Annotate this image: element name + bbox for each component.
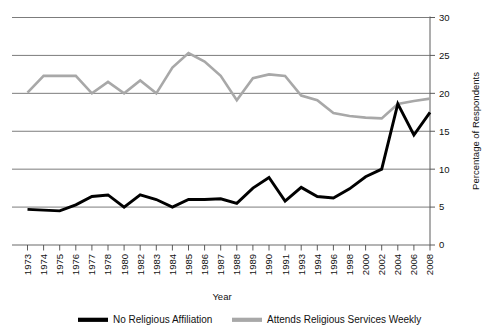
x-tick-labels-group: 1973197419751976197719781980198219831984… <box>22 254 436 275</box>
y-tick-labels-group: 051015202530 <box>439 12 450 251</box>
y-tick-label-10: 10 <box>439 164 450 175</box>
chart-legend: No Religious AffiliationAttends Religiou… <box>78 314 421 325</box>
x-axis-group <box>28 245 431 251</box>
gridlines-group <box>12 18 430 246</box>
y-tick-label-20: 20 <box>439 88 450 99</box>
x-tick-label-1984: 1984 <box>167 254 178 275</box>
x-tick-label-1986: 1986 <box>199 254 210 275</box>
legend-label-0: No Religious Affiliation <box>113 314 212 325</box>
x-tick-label-1996: 1996 <box>328 254 339 275</box>
x-tick-label-1973: 1973 <box>22 254 33 275</box>
x-tick-label-2002: 2002 <box>376 254 387 275</box>
x-tick-label-1977: 1977 <box>86 254 97 275</box>
y-axis-title: Percentage of Respondents <box>470 72 481 190</box>
series-lines-group <box>28 53 431 211</box>
x-tick-label-1987: 1987 <box>215 254 226 275</box>
x-tick-label-1983: 1983 <box>151 254 162 275</box>
y-tick-label-25: 25 <box>439 50 450 61</box>
x-tick-label-1975: 1975 <box>54 254 65 275</box>
x-tick-label-1989: 1989 <box>247 254 258 275</box>
line-chart: 051015202530 197319741975197619771978198… <box>0 0 500 335</box>
x-axis-title: Year <box>212 291 231 302</box>
y-tick-label-0: 0 <box>439 239 444 250</box>
x-tick-label-1994: 1994 <box>312 254 323 275</box>
x-tick-label-1980: 1980 <box>119 254 130 275</box>
series-line-attends-religious-services-weekly <box>28 53 431 118</box>
y-axis-group <box>430 17 435 246</box>
x-tick-label-2000: 2000 <box>360 254 371 275</box>
series-line-no-religious-affiliation <box>28 104 431 211</box>
x-tick-label-2006: 2006 <box>408 254 419 275</box>
chart-figure: 051015202530 197319741975197619771978198… <box>0 0 500 335</box>
x-tick-label-1978: 1978 <box>102 254 113 275</box>
x-tick-label-1998: 1998 <box>344 254 355 275</box>
x-tick-label-1974: 1974 <box>38 254 49 275</box>
x-tick-label-1988: 1988 <box>231 254 242 275</box>
y-tick-label-15: 15 <box>439 126 450 137</box>
y-tick-label-5: 5 <box>439 201 444 212</box>
x-tick-label-2008: 2008 <box>424 254 435 275</box>
x-tick-label-1991: 1991 <box>280 254 291 275</box>
x-tick-label-1985: 1985 <box>183 254 194 275</box>
x-tick-label-1993: 1993 <box>296 254 307 275</box>
x-tick-label-1982: 1982 <box>135 254 146 275</box>
x-tick-label-1990: 1990 <box>263 254 274 275</box>
y-tick-label-30: 30 <box>439 12 450 23</box>
x-tick-label-2004: 2004 <box>392 254 403 275</box>
x-tick-label-1976: 1976 <box>70 254 81 275</box>
legend-label-1: Attends Religious Services Weekly <box>267 314 421 325</box>
